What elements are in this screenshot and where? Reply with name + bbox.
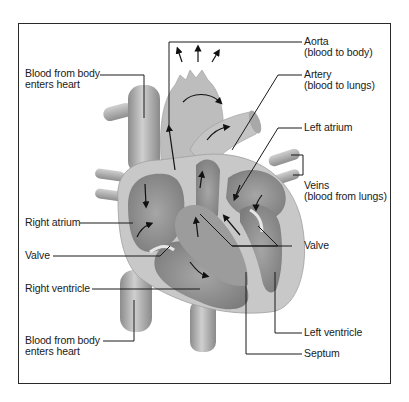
label-line: Left atrium — [304, 122, 353, 133]
label-blood-from-body-bottom: Blood from body enters heart — [25, 335, 100, 357]
label-right-ventricle: Right ventricle — [25, 283, 90, 294]
label-valve-right: Valve — [304, 240, 329, 251]
label-right-atrium: Right atrium — [25, 217, 80, 228]
label-line: Valve — [25, 250, 50, 261]
label-line: (blood to lungs) — [304, 80, 375, 91]
label-line: (blood from lungs) — [304, 191, 387, 202]
label-blood-from-body-top: Blood from body enters heart — [25, 68, 100, 90]
label-line: (blood to body) — [304, 47, 373, 58]
label-aorta: Aorta (blood to body) — [304, 36, 373, 58]
label-line: Right ventricle — [25, 283, 90, 294]
label-line: Septum — [304, 348, 340, 359]
label-veins: Veins (blood from lungs) — [304, 180, 387, 202]
label-artery: Artery (blood to lungs) — [304, 69, 375, 91]
label-septum: Septum — [304, 348, 340, 359]
label-left-ventricle: Left ventricle — [304, 327, 362, 338]
label-line: enters heart — [25, 346, 100, 357]
label-line: enters heart — [25, 79, 100, 90]
label-line: Valve — [304, 240, 329, 251]
label-left-atrium: Left atrium — [304, 122, 353, 133]
label-valve-left: Valve — [25, 250, 50, 261]
label-line: Left ventricle — [304, 327, 362, 338]
label-line: Right atrium — [25, 217, 80, 228]
